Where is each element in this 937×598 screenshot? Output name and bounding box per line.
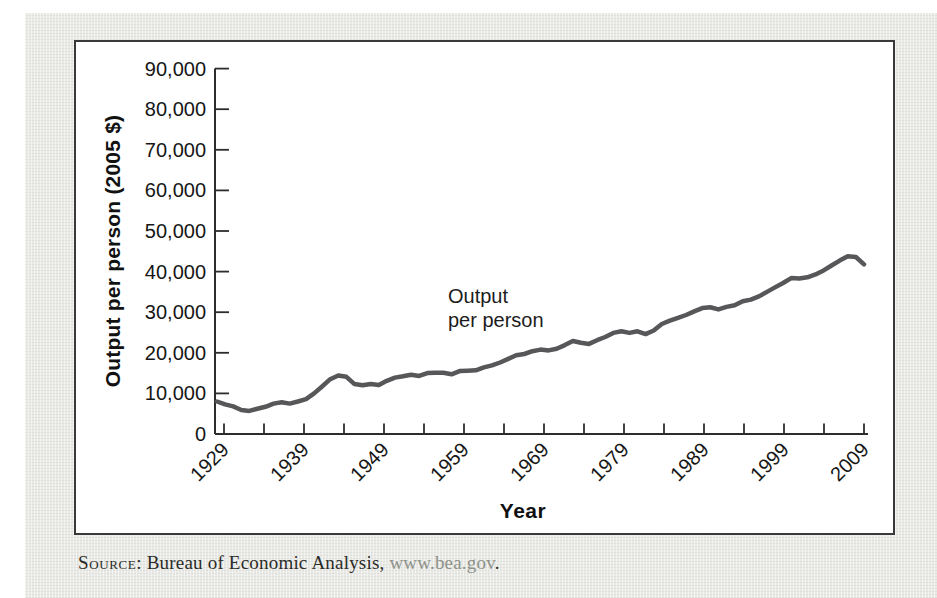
chart-box: 010,00020,00030,00040,00050,00060,00070,… [74,40,895,535]
x-tick-label: 1969 [506,438,553,485]
x-axis-title: Year [463,499,583,523]
x-tick-label: 1979 [586,438,633,485]
x-tick-label: 1939 [266,438,313,485]
x-tick-label: 1959 [426,438,473,485]
y-tick-label: 60,000 [145,179,206,201]
y-tick-label: 50,000 [145,220,206,242]
source-link: www.bea.gov [389,552,494,573]
line-annotation-line2: per person [448,308,544,332]
source-period: . [495,552,500,573]
y-tick-label: 30,000 [145,301,206,323]
line-annotation-line1: Output [448,284,544,308]
figure-panel: 010,00020,00030,00040,00050,00060,00070,… [25,13,937,598]
x-tick-label: 1999 [746,438,793,485]
x-tick-label: 1929 [186,438,233,485]
y-tick-label: 80,000 [145,98,206,120]
source-text: Bureau of Economic Analysis, [147,552,390,573]
y-tick-label: 10,000 [145,382,206,404]
x-tick-label: 2009 [826,438,873,485]
y-tick-label: 70,000 [145,139,206,161]
source-separator: : [136,552,146,573]
y-tick-label: 20,000 [145,342,206,364]
source-label: Source [78,552,136,573]
x-tick-label: 1949 [346,438,393,485]
line-annotation: Output per person [448,284,544,332]
y-tick-label: 0 [195,423,206,445]
source-note: Source: Bureau of Economic Analysis, www… [78,552,500,574]
output-per-person-line [217,256,864,411]
y-axis-title: Output per person (2005 $) [101,91,127,411]
y-tick-label: 40,000 [145,261,206,283]
x-tick-label: 1989 [666,438,713,485]
y-tick-label: 90,000 [145,58,206,80]
